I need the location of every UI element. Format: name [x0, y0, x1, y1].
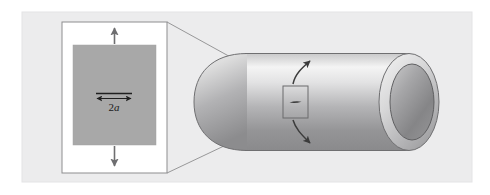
inset-dimension-label: 2a: [109, 101, 121, 113]
figure-root: 2a: [0, 0, 490, 195]
crack-detail-inset: 2a: [62, 22, 167, 173]
inset-dimension-label-symbol: a: [114, 101, 120, 113]
cylinder-bore: [390, 64, 434, 140]
pressure-vessel-cylinder: [194, 54, 439, 151]
figure-canvas: 2a: [0, 0, 490, 195]
inset-plate: [73, 45, 156, 145]
